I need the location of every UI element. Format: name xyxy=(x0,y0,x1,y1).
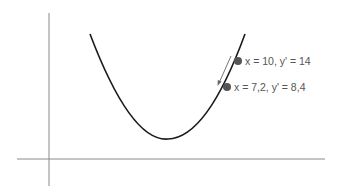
parabola-diagram: x = 10, y' = 14 x = 7,2, y' = 8,4 xyxy=(0,0,339,193)
point-2 xyxy=(223,83,231,91)
parabola-curve xyxy=(90,34,245,139)
point-1 xyxy=(234,57,242,65)
point-2-label: x = 7,2, y' = 8,4 xyxy=(234,81,306,93)
point-1-label: x = 10, y' = 14 xyxy=(245,55,311,67)
